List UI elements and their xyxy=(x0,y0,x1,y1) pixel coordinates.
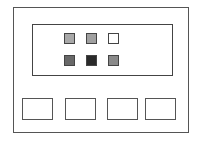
bottom-box-4[interactable] xyxy=(145,98,176,120)
bottom-box-3[interactable] xyxy=(107,98,138,120)
bottom-box-2[interactable] xyxy=(65,98,96,120)
indicator-square-2 xyxy=(86,33,97,44)
indicator-square-1 xyxy=(64,33,75,44)
indicator-square-4 xyxy=(64,55,75,66)
bottom-box-1[interactable] xyxy=(22,98,53,120)
indicator-square-3 xyxy=(108,33,119,44)
display-panel xyxy=(32,24,173,76)
indicator-square-6 xyxy=(108,55,119,66)
indicator-square-5 xyxy=(86,55,97,66)
